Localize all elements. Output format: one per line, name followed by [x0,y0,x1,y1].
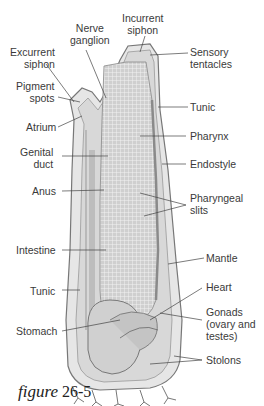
label-tunic-top: Tunic [190,101,215,113]
caption-number: 26-5 [62,383,91,400]
label-intestine: Intestine [16,244,56,256]
label-tunic-bottom: Tunic [30,285,55,297]
label-heart: Heart [206,281,232,293]
label-mantle: Mantle [206,252,238,264]
label-anus: Anus [32,185,56,197]
label-pharynx: Pharynx [190,130,229,142]
pharynx-basket [100,62,158,322]
figure-caption: figure26-5 [18,382,91,402]
label-sensory-tentacles: Sensory tentacles [190,46,232,70]
label-nerve-ganglion: Nerve ganglion [70,22,110,46]
label-incurrent-siphon: Incurrent siphon [122,12,163,36]
label-pigment-spots: Pigment spots [16,80,55,104]
label-pharyngeal-slits: Pharyngeal slits [190,192,243,216]
label-endostyle: Endostyle [190,158,236,170]
label-stolons: Stolons [206,354,241,366]
label-excurrent-siphon: Excurrent siphon [10,46,55,70]
label-atrium: Atrium [26,121,56,133]
label-gonads: Gonads (ovary and testes) [206,306,256,342]
label-genital-duct: Genital duct [20,146,53,170]
label-stomach: Stomach [16,325,57,337]
caption-word: figure [18,382,58,401]
